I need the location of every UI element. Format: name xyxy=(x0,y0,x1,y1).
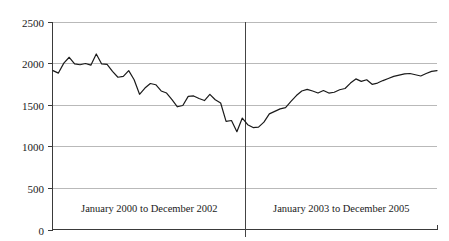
period-label-left: January 2000 to December 2002 xyxy=(81,203,217,214)
period-label-right: January 2003 to December 2005 xyxy=(273,203,409,214)
y-axis-tick-label: 500 xyxy=(28,183,45,195)
y-axis-tick-label: 2500 xyxy=(22,17,45,29)
y-axis-tick-label: 0 xyxy=(39,225,45,237)
line-chart-canvas: 05001000150020002500 January 2000 to Dec… xyxy=(0,0,449,241)
y-axis-tick-label: 2000 xyxy=(22,58,45,70)
y-axis-labels-group: 05001000150020002500 xyxy=(22,17,45,237)
y-axis-tick-label: 1000 xyxy=(22,141,45,153)
y-axis-tick-label: 1500 xyxy=(22,100,45,112)
chart-figure: 05001000150020002500 January 2000 to Dec… xyxy=(0,0,449,241)
